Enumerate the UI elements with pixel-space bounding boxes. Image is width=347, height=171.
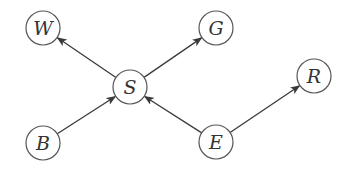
node-label: R [306,65,321,87]
node-e: E [199,125,233,159]
node-w: W [26,11,60,45]
bayesian-network-diagram: WGSRBE [0,0,347,171]
edge-e-to-s [145,96,202,132]
edge-b-to-s [57,96,115,133]
nodes-group: WGSRBE [26,11,331,160]
edge-e-to-r [230,86,299,133]
node-label: S [123,76,136,98]
edge-s-to-g [144,38,202,77]
node-r: R [297,59,331,93]
node-label: E [208,131,223,153]
edge-s-to-w [57,38,115,78]
node-label: W [33,17,54,39]
edges-group [57,38,299,134]
node-label: B [35,132,50,154]
node-s: S [113,70,147,104]
node-g: G [199,11,233,45]
node-b: B [26,126,60,160]
node-label: G [208,17,223,39]
